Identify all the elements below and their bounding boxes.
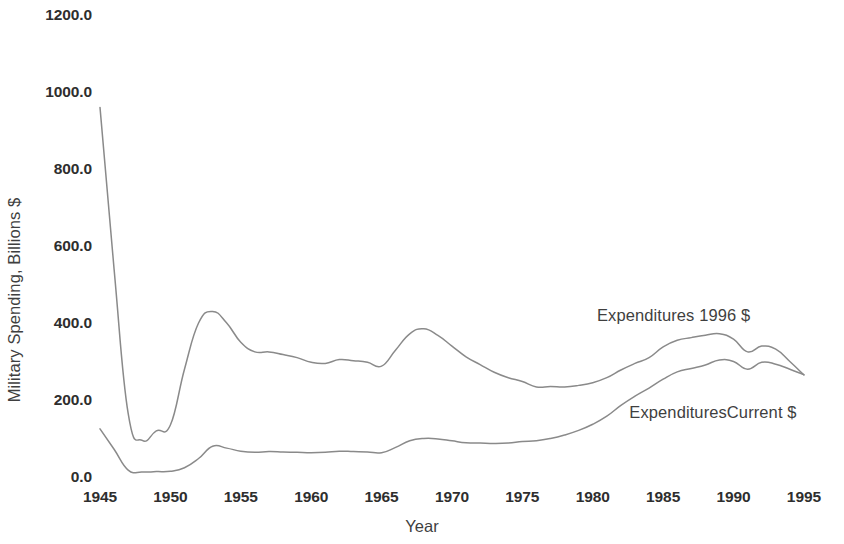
plot-area [0,0,844,544]
military-spending-line-chart: Military Spending, Billions $ 0.0200.040… [0,0,844,544]
series-line-expenditures-1996 [100,107,804,441]
series-label-expenditures-current: ExpendituresCurrent $ [629,403,796,422]
x-axis-title: Year [0,517,844,536]
series-label-expenditures-1996: Expenditures 1996 $ [597,306,750,325]
